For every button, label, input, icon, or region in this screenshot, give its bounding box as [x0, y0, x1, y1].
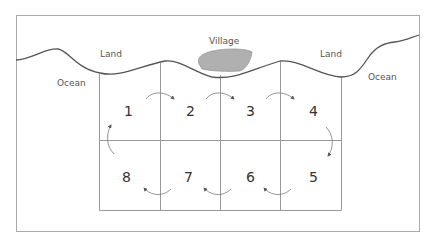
arrow-7-to-8 [144, 188, 171, 195]
ocean-left-label: Ocean [57, 78, 86, 88]
cell-7-label: 7 [184, 169, 193, 185]
arrow-5-to-6 [264, 188, 291, 195]
cell-5-label: 5 [309, 169, 318, 185]
arrow-8-to-1 [108, 125, 114, 154]
cell-1-label: 1 [124, 103, 133, 119]
diagram-frame [17, 16, 420, 232]
cell-3-label: 3 [246, 103, 255, 119]
land-left-label: Land [100, 49, 122, 59]
land-right-label: Land [320, 49, 342, 59]
cell-8-label: 8 [122, 169, 131, 185]
village-label: Village [209, 36, 240, 46]
arrow-4-to-5 [326, 127, 332, 156]
cell-6-label: 6 [246, 169, 255, 185]
village-shape [198, 49, 252, 71]
zone-grid [100, 62, 342, 211]
cell-4-label: 4 [309, 103, 318, 119]
rotation-diagram: Land Ocean Village Land Ocean 1 2 3 4 5 … [0, 0, 434, 243]
ocean-right-label: Ocean [368, 72, 397, 82]
cell-2-label: 2 [186, 103, 195, 119]
rotation-arrows [108, 93, 333, 195]
arrow-6-to-7 [204, 188, 231, 195]
